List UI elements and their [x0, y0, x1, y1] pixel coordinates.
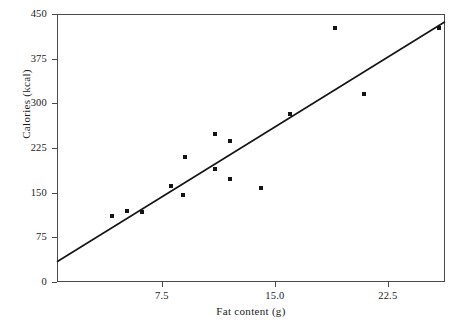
regression-line-layer: [0, 0, 457, 329]
y-axis-title: Calories (kcal): [20, 34, 32, 174]
x-axis-title: Fat content (g): [57, 305, 445, 317]
scatter-plot-figure: 075150225300375450 7.515.022.5 Calories …: [0, 0, 457, 329]
regression-line: [57, 22, 445, 262]
